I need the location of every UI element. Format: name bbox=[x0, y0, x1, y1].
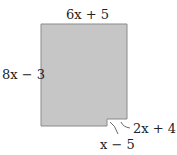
leader-line-notch-right bbox=[121, 122, 130, 128]
leader-line-notch-bottom bbox=[110, 122, 118, 134]
label-top: 6x + 5 bbox=[66, 7, 109, 22]
label-notch-right: 2x + 4 bbox=[133, 121, 176, 136]
notched-rectangle bbox=[41, 24, 127, 126]
label-notch-bottom: x − 5 bbox=[100, 137, 135, 152]
label-left: 8x − 3 bbox=[2, 67, 45, 82]
figure-canvas: 6x + 5 8x − 3 2x + 4 x − 5 bbox=[0, 0, 177, 155]
